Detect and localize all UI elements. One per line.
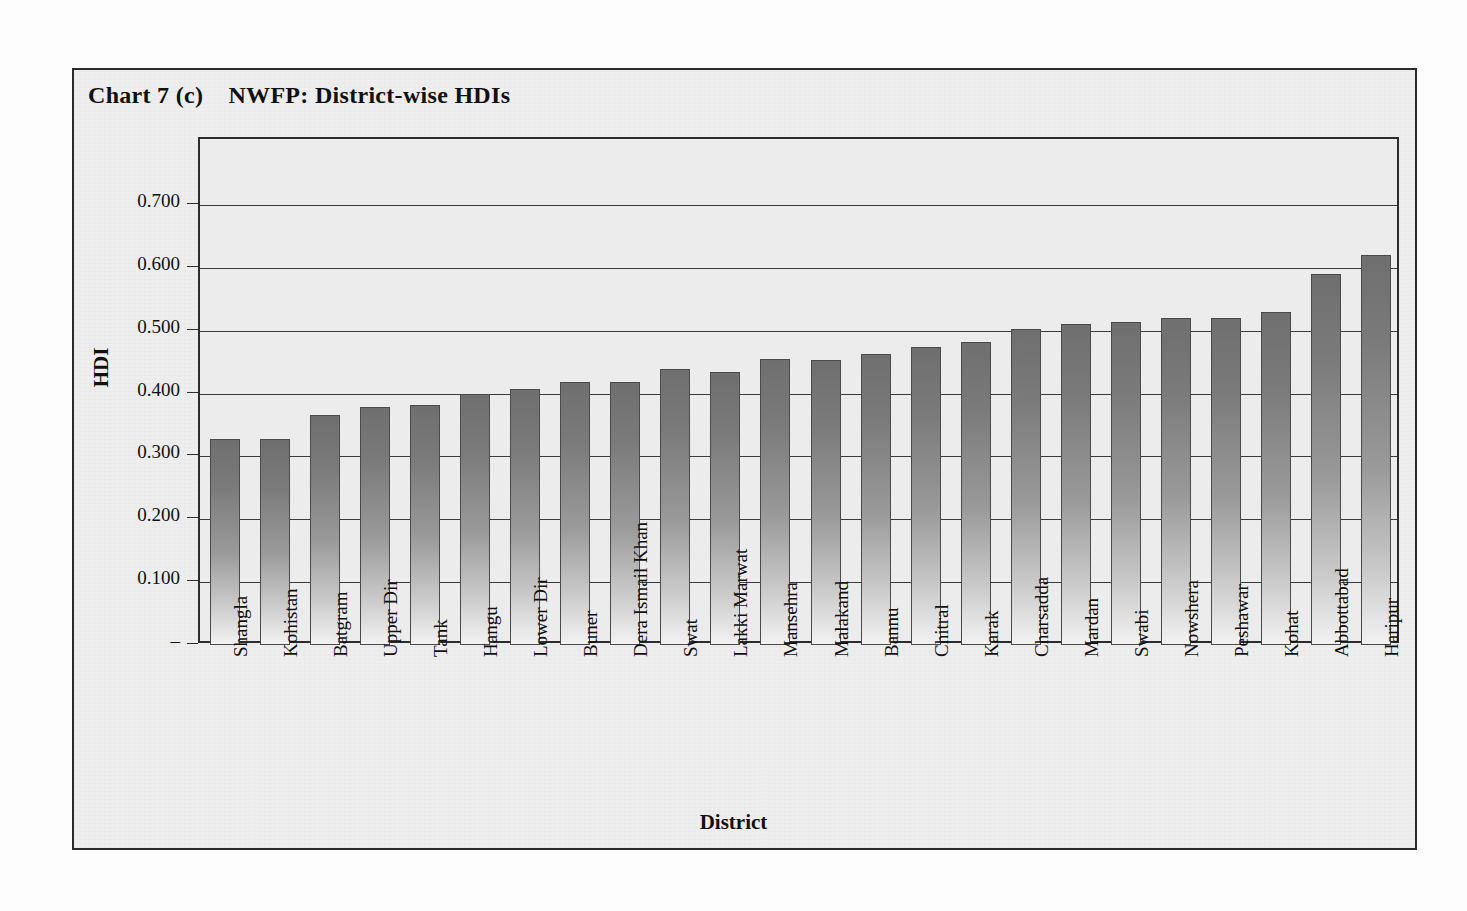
gridline <box>200 205 1397 206</box>
x-axis-tick-label: Lakki Marwat <box>730 549 752 657</box>
y-axis-tick-mark <box>187 643 198 644</box>
bar <box>1361 255 1391 645</box>
bar <box>1061 324 1091 645</box>
x-axis-tick-label: Kohistan <box>280 588 302 657</box>
y-axis-tick-label: 0.500 <box>108 316 180 338</box>
bar <box>911 347 941 645</box>
x-axis-tick-label: Kohat <box>1281 611 1303 657</box>
bar <box>410 405 440 645</box>
x-axis-tick-label: Swat <box>680 619 702 657</box>
scanned-page: Chart 7 (c) NWFP: District-wise HDIs HDI… <box>0 0 1467 911</box>
bar <box>961 342 991 645</box>
x-axis-tick-label: Peshawar <box>1231 584 1253 657</box>
x-axis-tick-label: Buner <box>580 611 602 657</box>
x-axis-tick-label: Nowshera <box>1181 580 1203 657</box>
y-axis-tick-mark <box>187 203 198 204</box>
y-axis-tick-label: 0.200 <box>108 504 180 526</box>
x-axis-tick-label: Hangu <box>480 606 502 657</box>
bar <box>660 369 690 645</box>
x-axis-tick-label: Lower Dir <box>530 577 552 657</box>
y-axis-tick-mark <box>187 517 198 518</box>
x-axis-tick-label: Malakand <box>831 581 853 657</box>
x-axis-tick-label: Karak <box>981 611 1003 657</box>
x-axis-tick-label: Dera Ismail Khan <box>630 522 652 657</box>
chart-title: Chart 7 (c) NWFP: District-wise HDIs <box>88 82 510 109</box>
x-axis-title: District <box>0 810 1467 835</box>
x-axis-tick-label: Chitral <box>931 604 953 657</box>
y-axis-tick-label: 0.100 <box>108 567 180 589</box>
x-axis-tick-label: Swabi <box>1131 610 1153 658</box>
y-axis-tick-mark <box>187 329 198 330</box>
y-axis-tick-mark <box>187 454 198 455</box>
x-axis-tick-label: Haripur <box>1381 598 1403 657</box>
y-axis-tick-mark <box>187 392 198 393</box>
bar <box>861 354 891 645</box>
plot-area <box>198 137 1399 643</box>
x-axis-tick-label: Bannu <box>881 607 903 657</box>
gridline <box>200 268 1397 269</box>
x-axis-tick-label: Tank <box>430 619 452 657</box>
y-axis-tick-label: 0.400 <box>108 379 180 401</box>
x-axis-tick-label: Charsadda <box>1031 577 1053 657</box>
x-axis-tick-label: Batgram <box>330 592 352 657</box>
bar <box>560 382 590 645</box>
y-axis-tick-label: 0.700 <box>108 190 180 212</box>
y-axis-tick-label: – <box>108 630 180 652</box>
bar <box>1261 312 1291 645</box>
y-axis-tick-label: 0.300 <box>108 441 180 463</box>
x-axis-tick-label: Abbottabad <box>1331 568 1353 657</box>
y-axis-tick-mark <box>187 580 198 581</box>
y-axis-tick-mark <box>187 266 198 267</box>
x-axis-tick-label: Upper Dir <box>380 579 402 657</box>
x-axis-tick-label: Mansehra <box>780 582 802 657</box>
y-axis-tick-label: 0.600 <box>108 253 180 275</box>
x-axis-tick-label: Mardan <box>1081 598 1103 657</box>
x-axis-tick-label: Shangla <box>230 596 252 657</box>
bar <box>1111 322 1141 645</box>
